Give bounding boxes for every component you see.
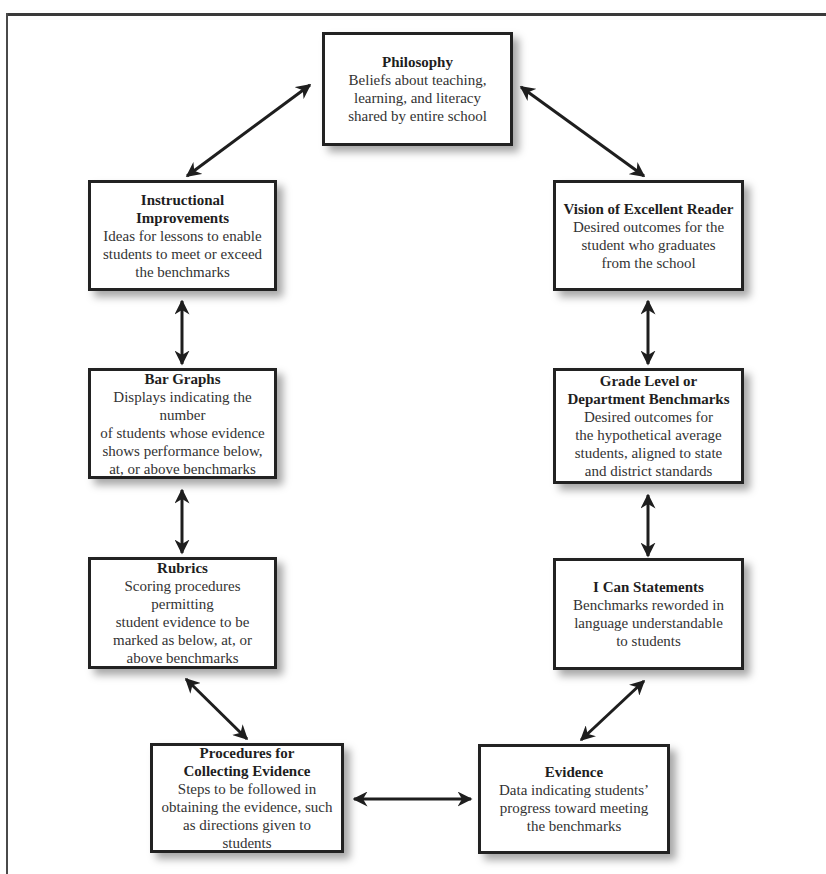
node-title: Evidence [545,763,603,781]
node-desc-line: of students whose evidence [100,424,265,442]
node-grade-level-benchmarks: Grade Level or Department Benchmarks Des… [553,368,744,484]
arrow-instructional-philosophy [187,85,310,176]
node-evidence: Evidence Data indicating students’ progr… [478,744,670,854]
node-desc-line: obtaining the evidence, such [162,798,333,816]
node-title: Philosophy [382,53,453,71]
node-philosophy: Philosophy Beliefs about teaching, learn… [322,32,513,146]
node-rubrics: Rubrics Scoring procedures permitting st… [88,557,277,669]
node-desc-line: students to meet or exceed [103,245,262,263]
node-title: Instructional Improvements [97,191,268,227]
node-desc-line: the hypothetical average [575,426,722,444]
arrow-rubrics-procedures [186,679,247,739]
node-desc-line: learning, and literacy [354,89,481,107]
node-desc-line: to students [616,632,681,650]
node-bar-graphs: Bar Graphs Displays indicating the numbe… [88,368,277,479]
node-title: I Can Statements [593,578,704,596]
node-desc-line: from the school [601,254,695,272]
node-desc-line: language understandable [574,614,723,632]
arrow-ican-evidence [581,681,644,740]
node-desc-line: Steps to be followed in [178,780,316,798]
node-desc-line: Data indicating students’ [499,781,649,799]
node-title: Vision of Excellent Reader [564,200,734,218]
node-desc-line: above benchmarks [126,649,238,667]
node-desc-line: Beliefs about teaching, [349,71,487,89]
node-desc-line: the benchmarks [135,263,230,281]
node-desc-line: the benchmarks [527,817,622,835]
node-procedures-for-collecting-evidence: Procedures for Collecting Evidence Steps… [150,743,344,853]
node-title: Grade Level or [600,372,697,390]
node-desc-line: Displays indicating the number [97,388,268,424]
node-desc-line: student who graduates [581,236,715,254]
node-title: Bar Graphs [145,370,221,388]
node-vision-of-excellent-reader: Vision of Excellent Reader Desired outco… [553,180,744,291]
node-desc-line: Ideas for lessons to enable [103,227,261,245]
node-desc-line: Desired outcomes for [584,408,713,426]
node-i-can-statements: I Can Statements Benchmarks reworded in … [553,558,744,670]
node-title: Collecting Evidence [183,762,310,780]
node-desc-line: Benchmarks reworded in [573,596,724,614]
node-desc-line: students, aligned to state [575,444,722,462]
node-desc-line: and district standards [585,462,712,480]
node-desc-line: Desired outcomes for the [573,218,724,236]
node-desc-line: at, or above benchmarks [109,460,256,478]
node-desc-line: Scoring procedures permitting [97,577,268,613]
node-desc-line: marked as below, at, or [113,631,252,649]
node-instructional-improvements: Instructional Improvements Ideas for les… [88,180,277,291]
node-title: Procedures for [200,744,295,762]
node-title: Rubrics [157,559,208,577]
node-desc-line: student evidence to be [116,613,250,631]
node-desc-line: shared by entire school [348,107,487,125]
node-desc-line: progress toward meeting [500,799,648,817]
node-desc-line: shows performance below, [102,442,262,460]
arrow-philosophy-vision [521,87,644,176]
node-title: Department Benchmarks [567,390,729,408]
node-desc-line: as directions given to students [159,816,335,852]
